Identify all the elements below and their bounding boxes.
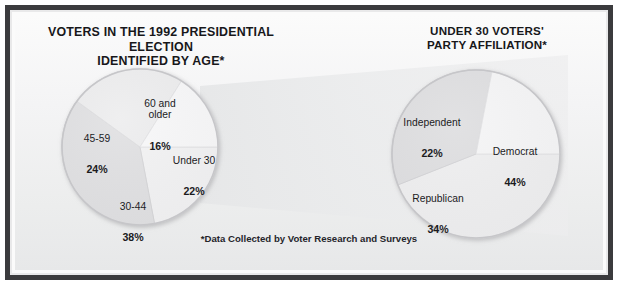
left-chart-title: VOTERS IN THE 1992 PRESIDENTIAL ELECTION… <box>18 25 304 69</box>
right-chart-title: UNDER 30 VOTERS' PARTY AFFILIATION* <box>392 24 582 51</box>
footnote-source: *Data Collected by Voter Research and Su… <box>159 233 459 244</box>
pie-chart-party <box>392 70 560 238</box>
chart-figure: VOTERS IN THE 1992 PRESIDENTIAL ELECTION… <box>0 0 618 285</box>
pie-chart-age <box>62 69 218 226</box>
